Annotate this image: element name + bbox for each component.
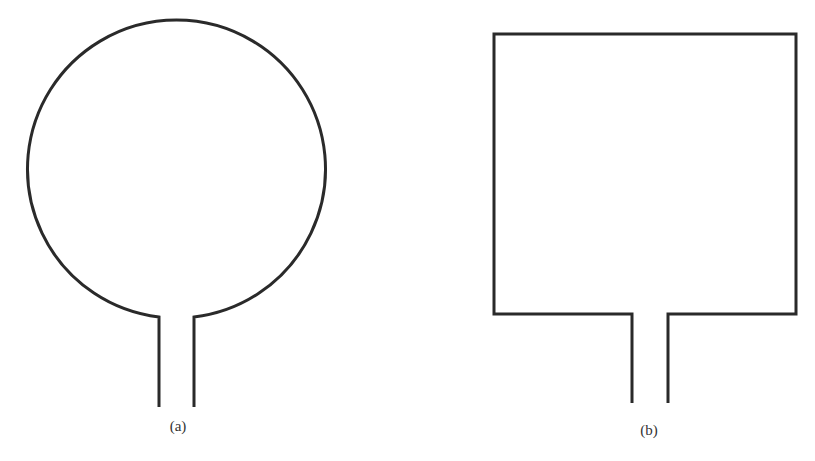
circle-loop-outline	[27, 20, 325, 407]
circular-loop-antenna	[27, 20, 325, 407]
figure-canvas	[0, 0, 815, 461]
panel-a-label: (a)	[170, 418, 187, 435]
square-loop-antenna	[494, 34, 796, 403]
square-loop-outline	[494, 34, 796, 403]
panel-b-label: (b)	[640, 422, 658, 439]
